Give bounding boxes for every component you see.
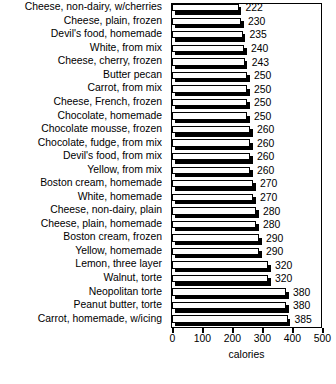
- bar-row: 385: [172, 314, 322, 328]
- x-tick-label: 0: [157, 333, 187, 345]
- category-label: Lemon, three layer: [0, 258, 162, 269]
- bar-row: 230: [172, 17, 322, 31]
- bar: [172, 194, 253, 201]
- bar-row: 235: [172, 30, 322, 44]
- category-label: White, from mix: [0, 42, 162, 53]
- bar-row: 250: [172, 71, 322, 85]
- category-label: Yellow, homemade: [0, 245, 162, 256]
- bar-row: 222: [172, 3, 322, 17]
- bar: [172, 180, 253, 187]
- bar-value-label: 260: [257, 138, 274, 150]
- x-tick: [202, 328, 203, 333]
- bar-row: 250: [172, 84, 322, 98]
- x-tick-label: 500: [307, 333, 336, 345]
- bar: [172, 58, 245, 65]
- bar: [172, 261, 268, 268]
- x-tick: [232, 328, 233, 333]
- bar: [172, 248, 259, 255]
- x-tick: [262, 328, 263, 333]
- bar: [172, 315, 288, 322]
- bar-row: 280: [172, 220, 322, 234]
- bars-layer: 2222302352402432502502502502602602602602…: [172, 3, 322, 328]
- bar: [172, 4, 239, 11]
- bar-value-label: 260: [257, 124, 274, 136]
- bar-value-label: 280: [263, 206, 280, 218]
- x-tick: [322, 328, 323, 333]
- category-label: Devil's food, from mix: [0, 150, 162, 161]
- category-label: Boston cream, homemade: [0, 177, 162, 188]
- bar: [172, 302, 286, 309]
- bar-row: 260: [172, 152, 322, 166]
- bar-row: 380: [172, 287, 322, 301]
- bar-value-label: 290: [266, 233, 283, 245]
- category-label: Chocolate, fudge, from mix: [0, 137, 162, 148]
- bar-value-label: 320: [275, 260, 292, 272]
- bar-value-label: 222: [245, 2, 262, 14]
- bar: [172, 288, 286, 295]
- bar-row: 250: [172, 98, 322, 112]
- bar-row: 260: [172, 125, 322, 139]
- x-axis: calories 0100200300400500: [171, 328, 322, 384]
- bar: [172, 221, 256, 228]
- bar: [172, 18, 241, 25]
- x-tick-label: 300: [247, 333, 277, 345]
- bar-row: 240: [172, 44, 322, 58]
- category-label: Cheese, non-dairy, plain: [0, 204, 162, 215]
- bar-row: 290: [172, 247, 322, 261]
- category-label: Walnut, torte: [0, 272, 162, 283]
- bar: [172, 234, 259, 241]
- bar: [172, 139, 250, 146]
- bar-value-label: 230: [248, 16, 265, 28]
- category-label: Cheese, plain, frozen: [0, 15, 162, 26]
- bar-value-label: 260: [257, 151, 274, 163]
- bar-row: 270: [172, 179, 322, 193]
- bar: [172, 99, 247, 106]
- bar-value-label: 260: [257, 165, 274, 177]
- x-tick-label: 200: [217, 333, 247, 345]
- bar-value-label: 235: [249, 29, 266, 41]
- x-tick: [292, 328, 293, 333]
- bar-value-label: 320: [275, 273, 292, 285]
- category-label: White, homemade: [0, 191, 162, 202]
- x-tick-label: 100: [187, 333, 217, 345]
- bar: [172, 112, 247, 119]
- category-label: Neopolitan torte: [0, 286, 162, 297]
- bar-row: 243: [172, 57, 322, 71]
- category-label: Cheese, plain, homemade: [0, 218, 162, 229]
- bar-row: 260: [172, 138, 322, 152]
- bar: [172, 167, 250, 174]
- category-label: Carrot, homemade, w/icing: [0, 313, 162, 324]
- x-tick: [172, 328, 173, 333]
- bar-value-label: 250: [254, 84, 271, 96]
- bar-row: 280: [172, 206, 322, 220]
- bar-value-label: 380: [293, 287, 310, 299]
- bar: [172, 45, 244, 52]
- category-label: Cheese, French, frozen: [0, 96, 162, 107]
- bar-row: 250: [172, 111, 322, 125]
- bar-value-label: 250: [254, 111, 271, 123]
- category-label: Butter pecan: [0, 69, 162, 80]
- category-axis: Cheese, non-dairy, w/cherriesCheese, pla…: [0, 0, 166, 328]
- bar: [172, 275, 268, 282]
- bar-row: 380: [172, 301, 322, 315]
- bar: [172, 31, 243, 38]
- bar-value-label: 385: [294, 314, 311, 326]
- category-label: Yellow, from mix: [0, 164, 162, 175]
- bar-row: 320: [172, 260, 322, 274]
- bar: [172, 153, 250, 160]
- bar-row: 320: [172, 274, 322, 288]
- bar-value-label: 240: [251, 43, 268, 55]
- category-label: Cheese, non-dairy, w/cherries: [0, 1, 162, 12]
- bar: [172, 72, 247, 79]
- category-label: Chocolate mousse, frozen: [0, 123, 162, 134]
- category-label: Devil's food, homemade: [0, 28, 162, 39]
- x-axis-title: calories: [171, 349, 322, 361]
- bar-value-label: 270: [260, 178, 277, 190]
- bar-value-label: 250: [254, 97, 271, 109]
- bar: [172, 85, 247, 92]
- bar: [172, 207, 256, 214]
- bar-value-label: 290: [266, 246, 283, 258]
- bar-value-label: 380: [293, 300, 310, 312]
- category-label: Cheese, cherry, frozen: [0, 55, 162, 66]
